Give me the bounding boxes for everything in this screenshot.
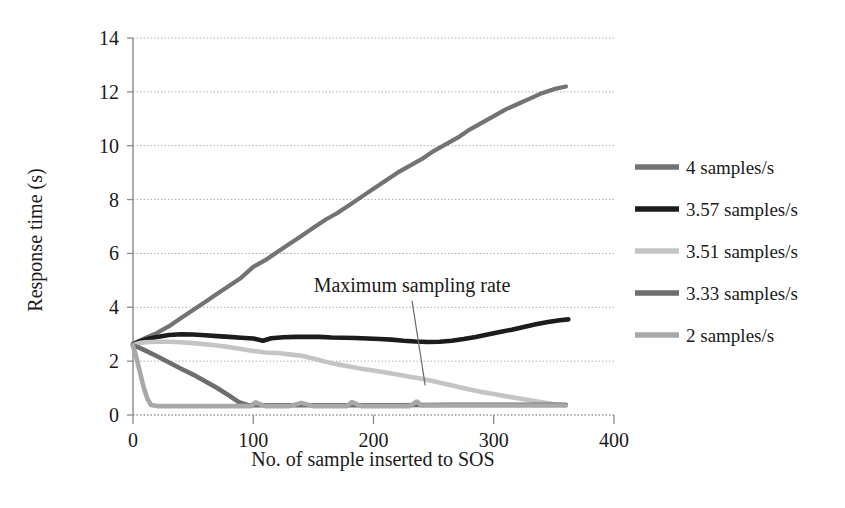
legend-label: 4 samples/s bbox=[686, 157, 774, 178]
y-axis-title: Response time (s) bbox=[24, 168, 47, 311]
y-tick-label: 14 bbox=[99, 27, 119, 49]
line-chart: Maximum sampling rate 02468101214 010020… bbox=[0, 0, 845, 508]
chart-figure: Maximum sampling rate 02468101214 010020… bbox=[0, 0, 845, 508]
legend-label: 3.33 samples/s bbox=[686, 283, 798, 304]
legend-label: 3.51 samples/s bbox=[686, 241, 798, 262]
y-tick-label: 10 bbox=[99, 135, 119, 157]
x-tick-label: 400 bbox=[599, 429, 629, 451]
y-tick-label: 2 bbox=[109, 350, 119, 372]
y-tick-label: 8 bbox=[109, 189, 119, 211]
x-axis-title: No. of sample inserted to SOS bbox=[251, 448, 494, 471]
annotation-maximum-sampling-rate: Maximum sampling rate bbox=[314, 274, 511, 297]
x-tick-label: 0 bbox=[128, 429, 138, 451]
legend-label: 3.57 samples/s bbox=[686, 199, 798, 220]
y-tick-label: 6 bbox=[109, 242, 119, 264]
y-tick-label: 4 bbox=[109, 296, 119, 318]
y-tick-label: 0 bbox=[109, 404, 119, 426]
legend-label: 2 samples/s bbox=[686, 325, 774, 346]
y-tick-label: 12 bbox=[99, 81, 119, 103]
